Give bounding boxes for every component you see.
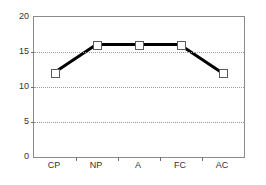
chart-figure: 05101520 CPNPAFCAC bbox=[0, 0, 266, 185]
x-axis: CPNPAFCAC bbox=[33, 161, 245, 179]
gridline-y-10 bbox=[34, 87, 244, 88]
gridline-y-15 bbox=[34, 52, 244, 53]
y-axis-tick-mark-10 bbox=[31, 87, 34, 88]
y-axis-tick-label-15: 15 bbox=[3, 47, 29, 56]
y-axis-tick-label-5: 5 bbox=[3, 117, 29, 126]
y-axis-tick-label-10: 10 bbox=[3, 82, 29, 91]
y-axis-tick-mark-15 bbox=[31, 52, 34, 53]
data-point-fc bbox=[177, 41, 186, 50]
gridline-y-5 bbox=[34, 122, 244, 123]
y-axis-tick-label-0: 0 bbox=[3, 152, 29, 161]
plot-area bbox=[33, 16, 245, 158]
x-axis-tick-label-np: NP bbox=[90, 161, 103, 170]
x-axis-tick-label-cp: CP bbox=[48, 161, 61, 170]
data-point-ac bbox=[219, 69, 228, 78]
y-axis: 05101520 bbox=[0, 16, 29, 158]
x-axis-tick-label-fc: FC bbox=[174, 161, 186, 170]
data-point-cp bbox=[51, 69, 60, 78]
x-axis-tick-label-a: A bbox=[135, 161, 141, 170]
x-axis-tick-label-ac: AC bbox=[216, 161, 229, 170]
data-point-np bbox=[93, 41, 102, 50]
data-point-a bbox=[135, 41, 144, 50]
y-axis-tick-mark-5 bbox=[31, 122, 34, 123]
y-axis-tick-label-20: 20 bbox=[3, 12, 29, 21]
